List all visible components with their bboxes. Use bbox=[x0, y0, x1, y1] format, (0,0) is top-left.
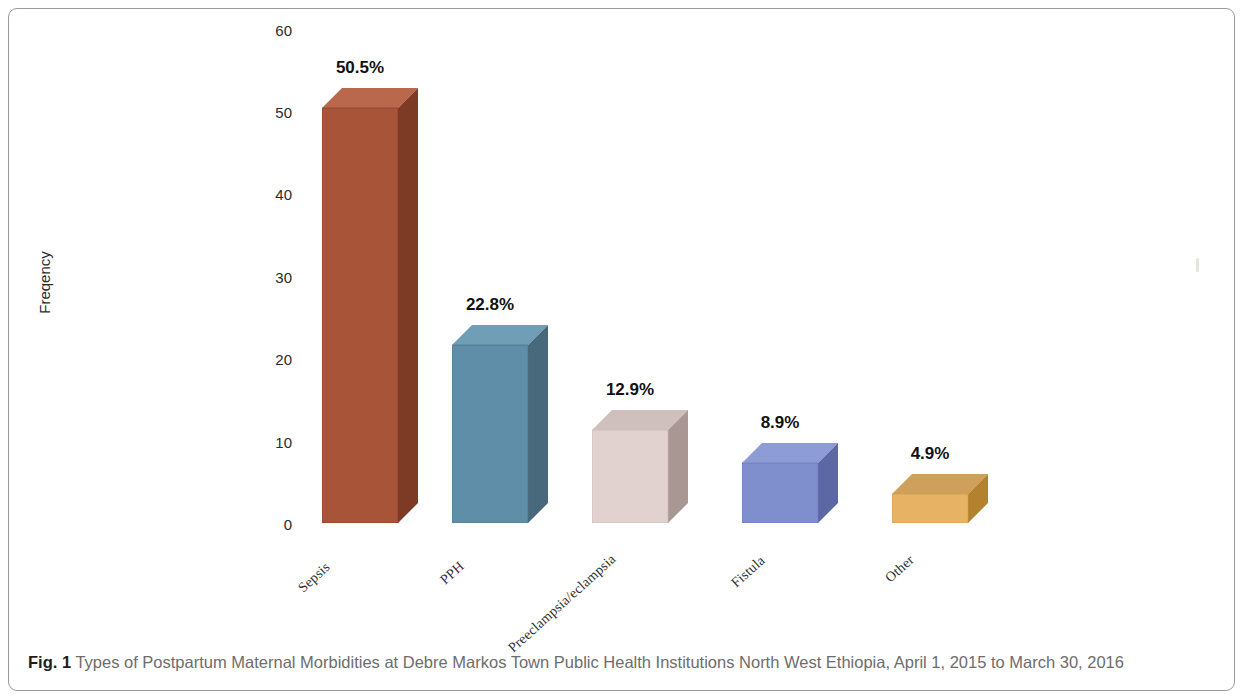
bar-other-shape bbox=[892, 474, 988, 523]
bar-fistula-shape bbox=[742, 443, 838, 523]
bar-value-other: 4.9% bbox=[882, 444, 978, 464]
y-tick-label-20: 20 bbox=[246, 352, 292, 367]
x-label-fistula: Fistula bbox=[728, 553, 768, 591]
x-label-sepsis: Sepsis bbox=[295, 559, 333, 596]
bar-value-preeclampsia-eclampsia: 12.9% bbox=[582, 380, 678, 400]
y-axis-title: Freqency bbox=[36, 223, 53, 343]
figure-caption: Fig. 1 Types of Postpartum Maternal Morb… bbox=[28, 652, 1233, 673]
bar-value-sepsis: 50.5% bbox=[312, 58, 408, 78]
figure-caption-label: Fig. 1 bbox=[28, 653, 71, 671]
bar-pph bbox=[452, 325, 548, 523]
y-tick-label-40: 40 bbox=[246, 187, 292, 202]
scan-artifact bbox=[1196, 258, 1199, 272]
figure-caption-text: Types of Postpartum Maternal Morbidities… bbox=[71, 653, 1124, 671]
bar-pph-shape bbox=[452, 325, 548, 523]
x-label-other: Other bbox=[882, 552, 917, 586]
bar-preeclampsia-eclampsia-shape bbox=[592, 410, 688, 523]
y-tick-label-10: 10 bbox=[246, 435, 292, 450]
y-tick-label-60: 60 bbox=[246, 23, 292, 38]
bar-fistula bbox=[742, 443, 838, 523]
y-tick-label-30: 30 bbox=[246, 270, 292, 285]
bar-sepsis-shape bbox=[322, 88, 418, 523]
bar-sepsis bbox=[322, 88, 418, 523]
bar-other bbox=[892, 474, 988, 523]
bar-value-pph: 22.8% bbox=[442, 295, 538, 315]
y-tick-label-50: 50 bbox=[246, 105, 292, 120]
y-tick-label-0: 0 bbox=[246, 517, 292, 532]
bar-chart: Freqency 60 50 40 30 20 10 0 50.5% Sepsi… bbox=[0, 0, 1243, 645]
x-label-preeclampsia-eclampsia: Preeclampsia/eclampsia bbox=[505, 551, 619, 656]
x-label-pph: PPH bbox=[437, 559, 467, 588]
bar-value-fistula: 8.9% bbox=[732, 413, 828, 433]
bar-preeclampsia-eclampsia bbox=[592, 410, 688, 523]
